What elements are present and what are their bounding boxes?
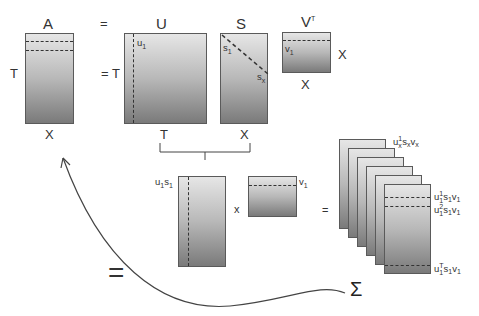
stack-row-label-2: u21s1v1 (434, 203, 461, 217)
stack-row-label-t: uT1s1v1 (434, 262, 461, 276)
rt-v-sub: 1 (457, 268, 461, 275)
equals-sign-product: = (322, 205, 328, 216)
sigma-icon: Σ (350, 279, 362, 299)
r2-v-sub: 1 (457, 209, 461, 216)
v1p-sub: 1 (304, 182, 308, 189)
row-dashed-line (249, 185, 296, 186)
matrix-v1 (248, 176, 297, 217)
arrowhead-icon (61, 158, 70, 168)
stack-frame-front (384, 184, 431, 274)
stack-top-label: u1xsxvx (393, 135, 419, 149)
row-dashed-line-t (385, 265, 430, 266)
times-sign: x (234, 204, 240, 215)
top-v-sub: x (415, 141, 419, 148)
v1-product-label: v1 (299, 177, 308, 189)
brace-icon (160, 143, 250, 152)
row-dashed-line-2 (385, 206, 430, 207)
u1s1-label: u1s1 (155, 177, 173, 189)
row-dashed-line-1 (385, 197, 430, 198)
matrix-u1s1 (178, 176, 226, 267)
u1s1-sub2: 1 (169, 182, 173, 189)
stack-row-label-1: u11s1v1 (434, 190, 461, 204)
big-equals-sign: = (108, 259, 124, 287)
column-dashed-line (188, 177, 189, 266)
